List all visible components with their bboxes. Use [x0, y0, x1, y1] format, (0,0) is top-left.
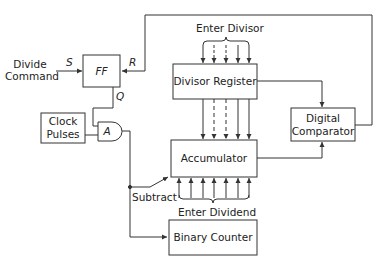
divisor-register-label: Divisor Register — [173, 64, 257, 99]
reset-input-label: R — [129, 56, 136, 68]
comparator-label-line1: Digital — [306, 112, 340, 125]
enter-divisor-label: Enter Divisor — [196, 22, 264, 34]
digital-comparator-label: Digital Comparator — [291, 108, 355, 141]
flip-flop-label: FF — [83, 55, 120, 87]
accumulator-to-comparator-wire — [257, 142, 322, 158]
comparator-label-line2: Comparator — [292, 125, 355, 138]
enter-divisor-brace — [203, 37, 249, 45]
and-output-wire — [122, 131, 167, 237]
subtract-label: Subtract — [132, 191, 177, 203]
q-output-label: Q — [116, 90, 124, 102]
divide-command-line1: Divide — [5, 58, 55, 70]
clock-label-line2: Pulses — [46, 128, 79, 141]
subtract-wire — [130, 177, 168, 187]
binary-counter-label: Binary Counter — [169, 220, 257, 255]
clock-pulses-label: Clock Pulses — [41, 113, 85, 143]
enter-dividend-label: Enter Dividend — [178, 206, 256, 218]
set-input-label: S — [66, 56, 73, 68]
divide-command-label: Divide Command — [5, 58, 55, 82]
and-gate-label: A — [98, 122, 116, 141]
clock-label-line1: Clock — [49, 115, 78, 128]
divisor-to-comparator-wire — [257, 81, 322, 107]
accumulator-label: Accumulator — [171, 140, 257, 177]
divide-command-line2: Command — [5, 70, 55, 82]
q-output-wire — [93, 87, 113, 126]
